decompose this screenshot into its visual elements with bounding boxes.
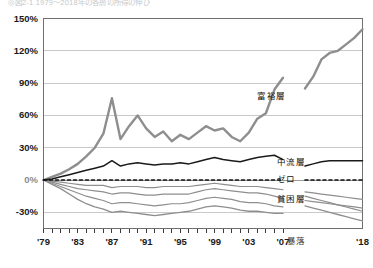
- y-axis-tick-label: 120%: [0, 46, 38, 56]
- series-label-zero: ゼロ: [277, 174, 296, 184]
- series-line: [305, 29, 363, 88]
- series-label-wealthy: 富裕層: [257, 91, 285, 101]
- x-axis-tick-label: '83: [71, 236, 84, 247]
- x-axis-tick-label: '91: [140, 236, 153, 247]
- y-axis-tick-label: 60%: [0, 110, 38, 120]
- x-axis-tick-label: '99: [208, 236, 221, 247]
- series-label-poor: 貧困層: [277, 194, 305, 204]
- y-axis-tick-label: 90%: [0, 78, 38, 88]
- y-axis-tick-label: 30%: [0, 143, 38, 153]
- y-axis-tick-label: -30%: [0, 207, 38, 217]
- chart-canvas: [0, 0, 373, 268]
- x-axis-tick-label: '03: [242, 236, 255, 247]
- y-axis-tick-label: 0%: [0, 175, 38, 185]
- y-axis-tick-label: 150%: [0, 14, 38, 24]
- x-axis-tick-label: 暴落: [287, 236, 305, 247]
- series-line: [44, 155, 284, 180]
- series-line: [44, 180, 284, 216]
- series-label-middle: 中流層: [277, 157, 305, 167]
- x-axis-tick-label: '18: [356, 236, 369, 247]
- x-axis-tick-label: '87: [106, 236, 119, 247]
- series-line: [44, 180, 284, 198]
- series-line: [44, 78, 284, 180]
- x-axis-tick-label: '95: [174, 236, 187, 247]
- chart-figure: ◎図2-1 1979～2018年の各層の所得の伸び 150%120%90%60%…: [0, 0, 373, 268]
- x-axis-tick-label: '79: [37, 236, 50, 247]
- series-line: [305, 161, 363, 166]
- series-line: [305, 206, 363, 221]
